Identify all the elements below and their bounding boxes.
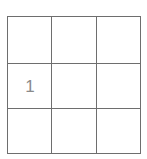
cell-r1-c0[interactable]: 1: [8, 64, 52, 109]
cell-r2-c0[interactable]: [8, 109, 52, 154]
game-board: 1: [7, 16, 141, 154]
cell-r0-c1[interactable]: [52, 17, 97, 64]
cell-r1-c1[interactable]: [52, 64, 97, 109]
cell-r0-c0[interactable]: [8, 17, 52, 64]
cell-r0-c2[interactable]: [97, 17, 141, 64]
cell-r1-c2[interactable]: [97, 64, 141, 109]
cell-r2-c1[interactable]: [52, 109, 97, 154]
cell-r2-c2[interactable]: [97, 109, 141, 154]
